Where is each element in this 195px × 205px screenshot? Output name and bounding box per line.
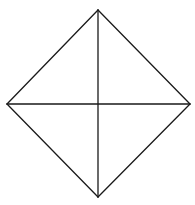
diagram-canvas bbox=[0, 0, 195, 205]
edge-left-top bbox=[7, 10, 98, 104]
edge-right-bottom bbox=[98, 104, 190, 197]
diamond-diagram bbox=[0, 0, 195, 205]
edge-bottom-left bbox=[7, 104, 98, 197]
diamond-shape-group bbox=[7, 10, 190, 197]
edge-top-right bbox=[98, 10, 190, 104]
